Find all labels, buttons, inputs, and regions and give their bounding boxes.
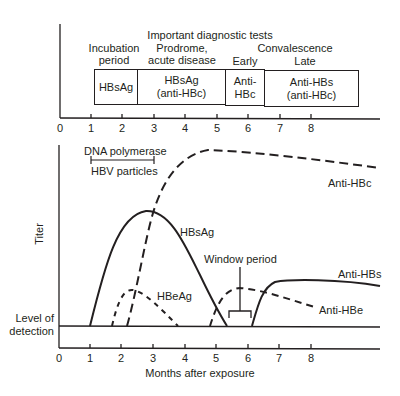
dna-polymerase-bar [91,156,154,164]
detection-level-line [59,326,380,327]
top-tick-1: 1 [84,122,98,134]
phase-convalescence: Convalescence [250,42,340,54]
phase-incubation: Incubation period [84,42,144,66]
label-hbsag: HBsAg [180,226,214,238]
test-box-early-line1: Anti- [234,75,257,88]
bottom-tick-4: 4 [178,352,192,364]
test-box-prodrome: HBsAg (anti-HBc) [137,69,226,105]
test-box-prodrome-line1: HBsAg [164,74,198,87]
bottom-tick-0: 0 [52,352,66,364]
test-box-prodrome-line2: (anti-HBc) [157,87,207,100]
test-box-late-line2: (anti-HBc) [287,89,337,102]
label-anti-hbc: Anti-HBc [328,177,371,189]
test-box-early: Anti- HBc [225,69,265,106]
x-axis-label: Months after exposure [110,367,290,379]
bottom-tick-7: 7 [272,352,286,364]
label-anti-hbs: Anti-HBs [338,268,381,280]
bottom-tick-8: 8 [304,352,318,364]
top-tick-7: 7 [273,122,287,134]
top-tick-4: 4 [178,122,192,134]
top-tick-8: 8 [304,122,318,134]
bottom-tick-5: 5 [209,352,223,364]
bottom-tick-3: 3 [146,352,160,364]
level-of-detection-line1: Level of [0,312,54,324]
window-period-bracket [229,267,251,318]
test-box-early-line2: HBc [235,88,256,101]
test-box-late-line1: Anti-HBs [290,76,333,89]
test-box-incubation: HBsAg [94,69,138,105]
level-of-detection-line2: detection [0,325,54,337]
hbv-particles-label: HBV particles [91,165,158,177]
phase-late: Late [280,55,330,67]
bottom-tick-6: 6 [241,352,255,364]
dna-polymerase-label: DNA polymerase [84,145,167,157]
top-tick-3: 3 [147,122,161,134]
y-axis-label: Titer [33,223,45,245]
phase-early: Early [225,55,265,67]
test-box-incubation-text: HBsAg [99,81,133,94]
top-tick-6: 6 [241,122,255,134]
top-tick-5: 5 [210,122,224,134]
top-title: Important diagnostic tests [100,29,320,41]
label-hbeag: HBeAg [157,290,192,302]
top-tick-2: 2 [115,122,129,134]
test-box-late: Anti-HBs (anti-HBc) [264,70,359,107]
bottom-tick-2: 2 [114,352,128,364]
phase-prodrome: Prodrome, acute disease [142,42,222,66]
window-period-label: Window period [204,253,277,265]
bottom-tick-1: 1 [83,352,97,364]
top-tick-0: 0 [53,122,67,134]
label-anti-hbe: Anti-HBe [319,304,363,316]
